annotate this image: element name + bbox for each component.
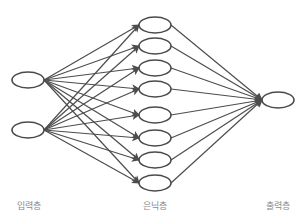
hidden-node-0 — [139, 17, 171, 33]
edge-hidden-6-to-output-0 — [171, 100, 262, 160]
hidden-node-1 — [139, 38, 171, 54]
hidden-node-7 — [139, 175, 171, 191]
output-layer-label: 출력층 — [258, 199, 298, 212]
edge-hidden-5-to-output-0 — [171, 100, 262, 138]
edge-hidden-3-to-output-0 — [171, 89, 262, 100]
output-node-0 — [262, 92, 294, 108]
edge-hidden-0-to-output-0 — [171, 25, 262, 100]
edge-input-0-to-hidden-0 — [44, 25, 139, 80]
neural-network-diagram — [0, 0, 304, 224]
hidden-node-2 — [139, 60, 171, 76]
hidden-node-3 — [139, 81, 171, 97]
hidden-node-5 — [139, 130, 171, 146]
input-node-1 — [12, 122, 44, 138]
input-node-0 — [12, 72, 44, 88]
hidden-node-4 — [139, 107, 171, 123]
hidden-layer-label: 은닉층 — [135, 199, 175, 212]
edge-input-0-to-hidden-1 — [44, 46, 139, 80]
edge-input-1-to-hidden-7 — [44, 130, 139, 183]
input-layer-label: 입력층 — [9, 199, 49, 212]
hidden-node-6 — [139, 152, 171, 168]
